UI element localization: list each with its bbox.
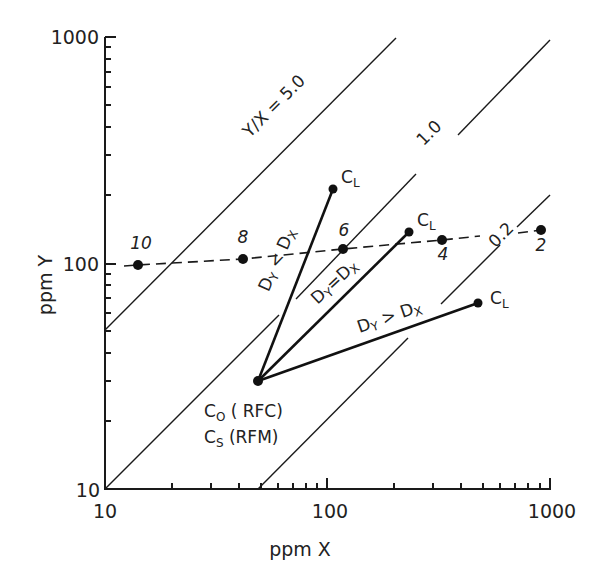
cs-label: CS (RFM) [204,427,278,450]
trend-point-2 [536,225,546,235]
cl-point-low [474,299,483,308]
trend-point-10 [133,260,143,270]
path-points [253,185,483,387]
dy-gt-dx-label: DY > DX [354,296,424,339]
ratio-lines [105,38,550,489]
log-log-chart: 1000 100 10 10 100 1000 ppm X ppm Y Y/X … [0,0,597,588]
y-tick-10: 10 [76,479,100,501]
ratio-1-label: 1.0 [412,116,445,149]
diffusion-paths [258,189,478,381]
ratio-02-label: 0.2 [484,218,517,251]
co-point [253,376,263,386]
x-tick-100: 100 [312,500,348,522]
y-tick-100: 100 [63,253,99,275]
ratio-02-line-c [517,195,550,227]
trend-label-6: 6 [339,220,350,240]
dy-lt-dx-label: DY < DX [254,225,301,295]
cl-label-top: CL [341,167,360,190]
x-tick-10: 10 [93,500,117,522]
x-tick-1000: 1000 [528,500,576,522]
cl-point-top [329,185,338,194]
trend-point-6 [338,244,348,254]
co-label: CO ( RFC) [204,401,283,424]
ratio-1-line-c [458,40,550,135]
trend-point-8 [238,254,248,264]
dy-eq-dx-label: DY=DX [307,255,363,309]
x-axis-title: ppm X [269,538,331,560]
trend-label-8: 8 [238,227,249,247]
y-axis [105,37,116,490]
trend-label-4: 4 [438,244,449,264]
cl-label-mid: CL [417,210,436,233]
ratio-5-label: Y/X = 5.0 [238,70,309,141]
trend-label-10: 10 [130,233,152,253]
path-dy-gt-dx [258,303,478,381]
cl-label-low: CL [490,288,509,311]
y-axis-title: ppm Y [34,254,56,315]
trend-label-2: 2 [536,235,547,255]
x-axis [104,478,551,489]
cl-point-mid [405,228,414,237]
y-tick-1000: 1000 [51,26,99,48]
dashed-trend-line [124,236,480,266]
